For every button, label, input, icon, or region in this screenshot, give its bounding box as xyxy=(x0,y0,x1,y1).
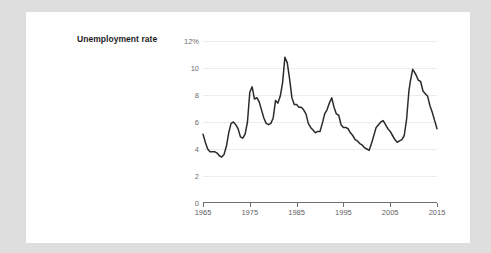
x-tick-label-1975: 1975 xyxy=(241,208,258,217)
x-tick-label-1965: 1965 xyxy=(195,208,212,217)
y-tick-label-2: 2 xyxy=(195,172,199,181)
chart-card: Unemployment rate 024681012% 19651975198… xyxy=(26,12,470,243)
x-tick-1965 xyxy=(203,203,204,207)
x-tick-label-2005: 2005 xyxy=(382,208,399,217)
y-tick-label-6: 6 xyxy=(195,118,199,127)
series-path-unemployment-rate xyxy=(203,57,437,157)
x-tick-1975 xyxy=(250,203,251,207)
x-tick-label-2015: 2015 xyxy=(429,208,446,217)
y-tick-label-4: 4 xyxy=(195,145,199,154)
y-tick-label-0: 0 xyxy=(195,199,199,208)
y-tick-label-10: 10 xyxy=(191,64,199,73)
chart-title: Unemployment rate xyxy=(77,34,157,44)
unemployment-rate-line xyxy=(203,41,437,203)
plot-area: 024681012% 196519751985199520052015 xyxy=(203,41,437,203)
y-tick-label-12: 12% xyxy=(184,37,199,46)
x-tick-2005 xyxy=(390,203,391,207)
x-tick-1995 xyxy=(343,203,344,207)
y-tick-label-8: 8 xyxy=(195,91,199,100)
x-tick-1985 xyxy=(297,203,298,207)
x-tick-2015 xyxy=(437,203,438,207)
x-tick-label-1985: 1985 xyxy=(288,208,305,217)
x-tick-label-1995: 1995 xyxy=(335,208,352,217)
page-background: Unemployment rate 024681012% 19651975198… xyxy=(0,0,491,253)
